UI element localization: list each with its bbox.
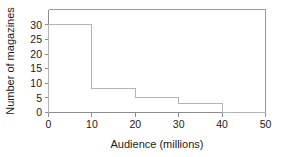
y-tick-label-15: 15 (30, 62, 42, 74)
y-axis-title: Number of magazines (4, 7, 16, 115)
y-tick-label-20: 20 (30, 48, 42, 60)
histogram-figure: 0 5 10 15 20 25 30 0 10 20 30 40 50 (0, 0, 293, 157)
x-tick-label-0: 0 (46, 118, 52, 130)
histogram-bar-10-20 (92, 88, 135, 112)
y-tick-label-0: 0 (36, 106, 42, 118)
x-tick-label-50: 50 (260, 118, 272, 130)
x-tick-label-20: 20 (129, 118, 141, 130)
x-tick-label-10: 10 (86, 118, 98, 130)
y-tick-label-10: 10 (30, 77, 42, 89)
y-tick-label-25: 25 (30, 33, 42, 45)
chart-svg: 0 5 10 15 20 25 30 0 10 20 30 40 50 (0, 0, 293, 157)
x-axis-title: Audience (millions) (111, 138, 204, 150)
histogram-bars (49, 25, 266, 113)
y-tick-label-30: 30 (30, 19, 42, 31)
x-tick-marks (49, 113, 266, 117)
histogram-bar-0-10 (49, 25, 92, 113)
y-tick-label-5: 5 (36, 92, 42, 104)
x-tick-label-30: 30 (173, 118, 185, 130)
histogram-outline (49, 25, 266, 113)
histogram-bar-30-40 (179, 103, 222, 112)
x-tick-labels: 0 10 20 30 40 50 (46, 118, 272, 130)
x-tick-label-40: 40 (216, 118, 228, 130)
histogram-bar-20-30 (135, 97, 178, 112)
y-tick-labels: 0 5 10 15 20 25 30 (30, 19, 42, 119)
y-tick-marks (45, 25, 49, 113)
